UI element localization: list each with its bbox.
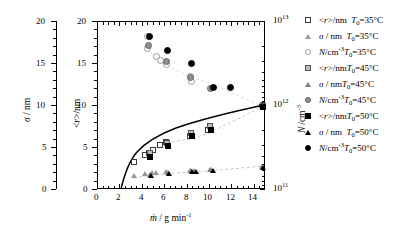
data-point-meanr-50C <box>260 104 266 110</box>
N-tick-1e11: 1011 <box>273 184 288 193</box>
data-point-sigma-50C <box>166 171 172 176</box>
legend-label: <r>/nm T0=35°C <box>319 14 383 27</box>
meanr-minor-tick <box>94 71 97 72</box>
x-top-minor-tick <box>243 22 244 25</box>
triangle-open-icon <box>305 34 311 39</box>
sigma-tick-mark <box>51 147 56 148</box>
circle-filled-icon <box>305 145 311 151</box>
data-point-sigma-50C <box>210 168 216 173</box>
meanr-minor-tick <box>94 122 97 123</box>
x-top-minor-tick <box>215 22 216 25</box>
data-point-N-45C <box>163 58 170 65</box>
x-major-tick <box>231 184 232 189</box>
sigma-tick-0: 0 <box>42 185 47 194</box>
meanr-tick-15: 15 <box>77 59 86 68</box>
sigma-tick-mark <box>51 63 56 64</box>
data-point-meanr-50C <box>189 133 195 139</box>
data-point-N-50C <box>210 84 217 91</box>
x-top-minor-tick <box>108 22 109 25</box>
sigma-minor-tick <box>53 71 56 72</box>
meanr-tick-5: 5 <box>83 143 88 152</box>
sigma-tick-5: 5 <box>42 143 47 152</box>
meanr-minor-tick <box>94 46 97 47</box>
x-top-minor-tick <box>114 22 115 25</box>
x-tick-10: 10 <box>203 193 212 202</box>
x-tick-8: 8 <box>184 193 189 202</box>
sigma-axis-line <box>56 21 57 189</box>
x-minor-tick <box>103 186 104 189</box>
data-point-meanr-50C <box>165 143 171 149</box>
x-minor-tick <box>170 186 171 189</box>
legend-label: σ / nm T0=50°C <box>319 126 378 139</box>
x-tick-4: 4 <box>139 193 144 202</box>
x-top-minor-tick <box>231 22 232 26</box>
x-tick-14: 14 <box>248 193 257 202</box>
data-point-sigma-35C <box>131 173 137 178</box>
sigma-minor-tick <box>53 88 56 89</box>
x-top-minor-tick <box>136 22 137 25</box>
N-major-tick <box>260 21 265 22</box>
meanr-minor-tick <box>94 181 97 182</box>
data-point-meanr-50C <box>147 154 153 160</box>
x-major-tick <box>254 184 255 189</box>
x-minor-tick <box>108 186 109 189</box>
x-major-tick <box>209 184 210 189</box>
number-density-axis-title: N /cm-3 <box>297 105 307 133</box>
x-top-minor-tick <box>226 22 227 25</box>
sigma-minor-tick <box>53 181 56 182</box>
triangle-half-icon <box>305 82 311 87</box>
x-minor-tick <box>192 186 193 189</box>
N-minor-tick <box>262 61 265 62</box>
sigma-minor-tick <box>53 172 56 173</box>
mean-radius-axis-title: <r>/nm <box>72 99 82 128</box>
meanr-tick-mark <box>92 63 97 64</box>
x-top-minor-tick <box>237 22 238 25</box>
legend-label: σ / nmT0=45°C <box>319 78 374 91</box>
meanr-minor-tick <box>94 172 97 173</box>
circle-half-icon <box>305 97 311 103</box>
N-minor-tick <box>262 86 265 87</box>
x-top-minor-tick <box>119 22 120 26</box>
x-top-minor-tick <box>125 22 126 25</box>
x-minor-tick <box>175 186 176 189</box>
x-top-minor-tick <box>131 22 132 25</box>
x-top-minor-tick <box>142 22 143 26</box>
N-minor-tick <box>262 130 265 131</box>
data-point-meanr-50C <box>208 127 214 133</box>
x-major-tick <box>142 184 143 189</box>
N-minor-tick <box>262 72 265 73</box>
N-tick-1e13: 1013 <box>273 16 289 25</box>
sigma-tick-15: 15 <box>36 59 45 68</box>
x-minor-tick <box>125 186 126 189</box>
x-major-tick <box>187 184 188 189</box>
x-top-minor-tick <box>187 22 188 26</box>
sigma-minor-tick <box>53 46 56 47</box>
legend-label: <r>/nmT0=50°C <box>319 110 379 123</box>
sigma-axis-title: σ / nm <box>22 98 32 122</box>
x-minor-tick <box>198 186 199 189</box>
square-open-icon <box>305 17 311 23</box>
data-point-sigma-50C <box>148 173 154 178</box>
x-minor-tick <box>243 186 244 189</box>
x-major-tick <box>97 184 98 189</box>
legend-label: N/cm-3T0=45°C <box>319 94 376 107</box>
x-minor-tick <box>203 186 204 189</box>
data-point-sigma-50C <box>193 169 199 174</box>
x-minor-tick <box>153 186 154 189</box>
x-minor-tick <box>136 186 137 189</box>
meanr-minor-tick <box>94 113 97 114</box>
circle-open-icon <box>305 49 311 55</box>
sigma-minor-tick <box>53 155 56 156</box>
x-minor-tick <box>114 186 115 189</box>
x-tick-12: 12 <box>226 193 235 202</box>
meanr-minor-tick <box>94 155 97 156</box>
x-major-tick <box>164 184 165 189</box>
x-top-minor-tick <box>254 22 255 26</box>
meanr-tick-mark <box>92 147 97 148</box>
x-minor-tick <box>215 186 216 189</box>
meanr-tick-mark <box>92 21 97 22</box>
meanr-minor-tick <box>94 164 97 165</box>
legend-label: N/cm-3T0=50°C <box>319 142 376 155</box>
plot-frame <box>97 21 265 189</box>
meanr-minor-tick <box>94 88 97 89</box>
